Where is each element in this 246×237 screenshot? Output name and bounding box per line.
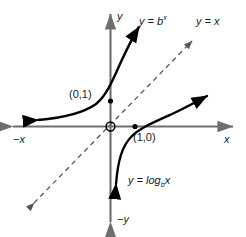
exponential-curve bbox=[38, 27, 139, 120]
math-figure-exponential-logarithm: y = bx y = x y = logbx (0,1) (1,0) −x x … bbox=[0, 0, 246, 237]
label-identity-line: y = x bbox=[196, 16, 220, 27]
graph-canvas bbox=[0, 0, 246, 237]
logarithmic-curve bbox=[116, 96, 207, 184]
label-log-argument: x bbox=[165, 174, 171, 186]
label-log-text: y = log bbox=[128, 174, 161, 186]
annotation-point-1-0: (1,0) bbox=[133, 132, 156, 143]
label-exponential-text: y = b bbox=[139, 15, 163, 27]
point-marker-1-0 bbox=[132, 124, 137, 129]
axis-label-positive-y: y bbox=[117, 11, 123, 22]
label-logarithmic-function: y = logbx bbox=[128, 175, 170, 188]
annotation-point-0-1: (0,1) bbox=[69, 89, 92, 100]
axis-label-positive-x: x bbox=[224, 134, 230, 145]
axis-label-negative-x: −x bbox=[13, 134, 25, 145]
point-marker-0-1 bbox=[108, 98, 113, 103]
axis-label-negative-y: −y bbox=[117, 214, 129, 225]
label-exponential-function: y = bx bbox=[139, 14, 167, 27]
label-exponential-exponent: x bbox=[163, 14, 167, 21]
